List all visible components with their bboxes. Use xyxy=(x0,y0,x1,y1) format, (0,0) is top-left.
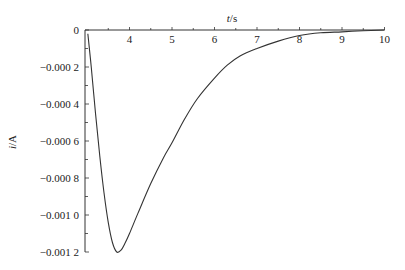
x-tick-label: 5 xyxy=(169,33,175,45)
x-axis-title: t/s xyxy=(227,12,237,24)
y-tick-label: −0.000 2 xyxy=(40,61,79,73)
y-tick-label: −0.001 0 xyxy=(40,209,80,221)
x-tick-label: 6 xyxy=(212,33,218,45)
x-tick-label: 4 xyxy=(127,33,133,45)
y-axis-title: i/A xyxy=(6,135,18,149)
chart: 45678910 0−0.000 2−0.000 4−0.000 6−0.000… xyxy=(0,0,405,270)
y-tick-label: −0.000 8 xyxy=(40,172,80,184)
y-axis: 0−0.000 2−0.000 4−0.000 6−0.000 8−0.001 … xyxy=(40,24,89,258)
y-tick-label: −0.001 2 xyxy=(40,246,79,258)
x-tick-label: 10 xyxy=(379,33,391,45)
x-axis: 45678910 xyxy=(85,27,391,45)
y-tick-label: −0.000 6 xyxy=(40,135,80,147)
x-tick-label: 7 xyxy=(254,33,260,45)
x-tick-label: 9 xyxy=(339,33,345,45)
current-curve xyxy=(88,30,385,252)
y-tick-label: 0 xyxy=(74,24,80,36)
y-tick-label: −0.000 4 xyxy=(40,98,80,110)
